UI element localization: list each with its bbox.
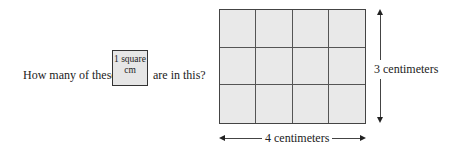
width-label: 4 centimeters bbox=[262, 131, 332, 146]
unit-square-line1: 1 square bbox=[113, 54, 147, 65]
grid-cell bbox=[293, 48, 329, 86]
grid-cell bbox=[256, 48, 292, 86]
grid-cell bbox=[293, 10, 329, 48]
grid-cell bbox=[220, 48, 256, 86]
grid-cell bbox=[293, 85, 329, 123]
height-label: 3 centimeters bbox=[374, 60, 438, 79]
arrow-up-icon bbox=[377, 9, 383, 15]
grid-cell bbox=[329, 85, 365, 123]
arrow-left-icon bbox=[219, 135, 225, 141]
rectangle-grid bbox=[219, 9, 366, 124]
unit-square: 1 square cm bbox=[112, 50, 148, 86]
unit-square-line2: cm bbox=[113, 65, 147, 76]
question-prefix: How many of these bbox=[23, 68, 117, 83]
grid-cell bbox=[220, 10, 256, 48]
grid-cell bbox=[329, 48, 365, 86]
grid-cell bbox=[329, 10, 365, 48]
grid-cell bbox=[256, 85, 292, 123]
arrow-down-icon bbox=[377, 117, 383, 123]
arrow-right-icon bbox=[360, 135, 366, 141]
grid-cell bbox=[256, 10, 292, 48]
question-suffix: are in this? bbox=[153, 68, 206, 83]
grid-cell bbox=[220, 85, 256, 123]
